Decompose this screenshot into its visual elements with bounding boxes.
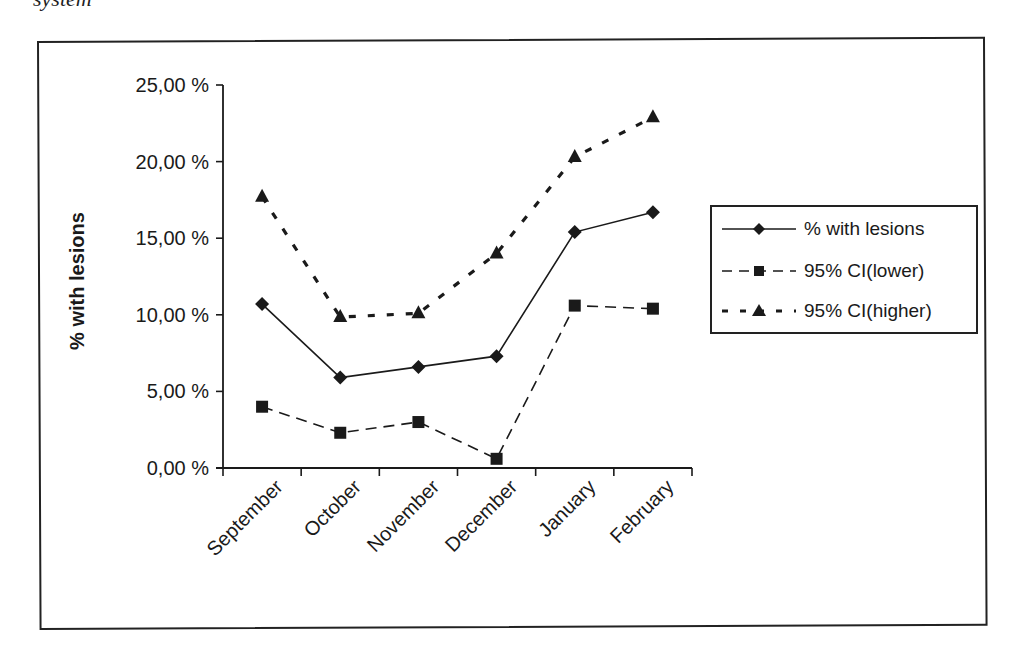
series-line-2 (262, 117, 653, 317)
legend-label: 95% CI(higher) (804, 300, 932, 322)
y-axis-title: % with lesions (66, 212, 89, 350)
square-marker (256, 401, 268, 413)
chart-series (255, 109, 660, 465)
legend-item-ci-higher: 95% CI(higher) (720, 295, 932, 327)
y-tick-label: 20,00 % (136, 151, 210, 173)
diamond-marker (646, 205, 660, 219)
square-marker (491, 453, 503, 465)
x-tick-label: January (534, 475, 600, 541)
square-dashed-line-icon (720, 261, 798, 281)
series-line-0 (262, 212, 653, 377)
square-marker (647, 303, 659, 315)
x-tick-label: September (202, 475, 287, 560)
series-line-1 (262, 306, 653, 459)
legend-label: % with lesions (804, 218, 924, 240)
y-tick-label: 5,00 % (147, 380, 209, 402)
x-tick-label: December (441, 475, 522, 556)
legend-item-ci-lower: 95% CI(lower) (720, 255, 924, 287)
x-tick-label: October (299, 475, 365, 541)
triangle-marker (568, 149, 582, 162)
triangle-dotted-line-icon (720, 301, 798, 321)
diamond-marker (490, 349, 504, 363)
legend-label: 95% CI(lower) (804, 260, 924, 282)
diamond-marker (568, 225, 582, 239)
square-marker (412, 416, 424, 428)
y-tick-label: 10,00 % (136, 304, 210, 326)
y-tick-label: 15,00 % (136, 227, 210, 249)
y-tick-label: 0,00 % (147, 457, 209, 479)
x-tick-label: November (362, 475, 443, 556)
chart-legend: % with lesions 95% CI(lower) 95% CI(high… (710, 205, 978, 334)
x-tick-label: February (606, 475, 678, 547)
y-tick-label: 25,00 % (136, 74, 210, 96)
triangle-marker (255, 189, 269, 202)
square-marker (569, 300, 581, 312)
diamond-line-icon (720, 219, 798, 239)
square-marker (334, 427, 346, 439)
diamond-marker (411, 360, 425, 374)
triangle-marker (411, 305, 425, 318)
legend-item-percent-with-lesions: % with lesions (720, 213, 924, 245)
triangle-marker (646, 109, 660, 122)
